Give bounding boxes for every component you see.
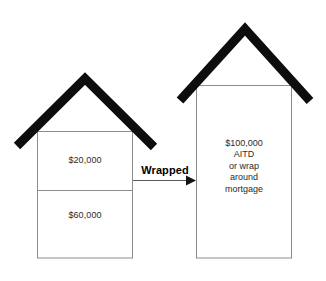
left-house-body — [38, 132, 133, 259]
mortgage-wrap-diagram: $20,000 $60,000 Wrapped $100,000 AITD or… — [0, 0, 326, 281]
diagram-canvas — [0, 0, 326, 281]
right-house-body — [197, 86, 292, 259]
